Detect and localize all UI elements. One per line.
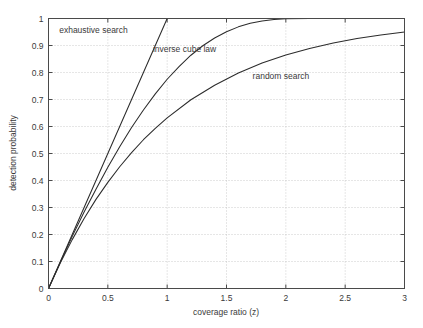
x-tick-label: 0 xyxy=(46,293,51,303)
x-tick-label: 1.5 xyxy=(221,293,233,303)
label-inverse-cube-law: inverse cube law xyxy=(153,44,217,54)
y-tick-label: 0.1 xyxy=(32,257,44,267)
x-tick-label: 3 xyxy=(402,293,407,303)
y-tick-label: 0.4 xyxy=(32,176,44,186)
x-tick-label: 0.5 xyxy=(102,293,114,303)
y-tick-label: 0.8 xyxy=(32,68,44,78)
y-tick-label: 0 xyxy=(39,284,44,294)
label-exhaustive-search: exhaustive search xyxy=(59,25,128,35)
x-tick-label: 2 xyxy=(283,293,288,303)
y-tick-label: 0.5 xyxy=(32,149,44,159)
y-tick-label: 0.2 xyxy=(32,230,44,240)
y-tick-label: 0.6 xyxy=(32,122,44,132)
y-tick-label: 1 xyxy=(39,14,44,24)
y-tick-label: 0.9 xyxy=(32,41,44,51)
y-axis-title: detection probability xyxy=(8,114,18,190)
y-tick-label: 0.3 xyxy=(32,203,44,213)
chart-figure: 00.511.522.53 00.10.20.30.40.50.60.70.80… xyxy=(0,0,423,328)
detection-probability-chart: 00.511.522.53 00.10.20.30.40.50.60.70.80… xyxy=(0,0,423,328)
x-tick-label: 2.5 xyxy=(339,293,351,303)
x-tick-label: 1 xyxy=(165,293,170,303)
x-axis-title: coverage ratio (z) xyxy=(193,307,259,317)
label-random-search: random search xyxy=(253,71,310,81)
y-tick-label: 0.7 xyxy=(32,95,44,105)
